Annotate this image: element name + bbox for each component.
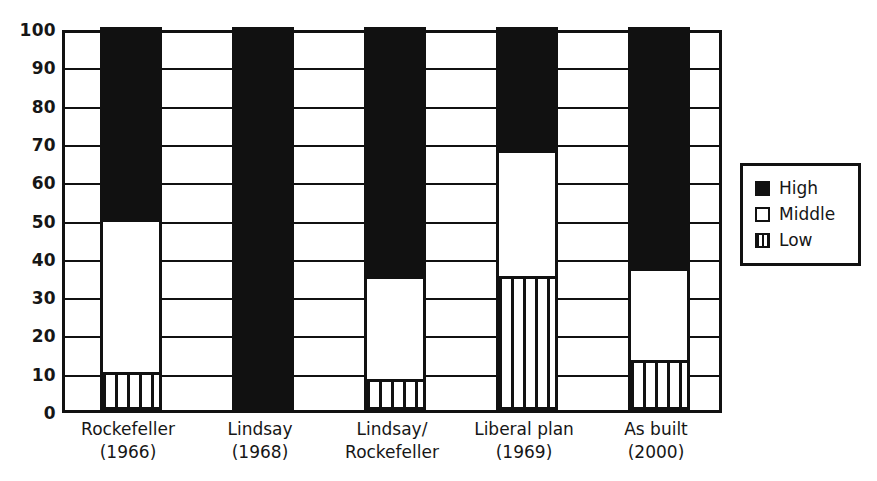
bar-group [65, 33, 719, 410]
bar-segment-middle[interactable] [100, 219, 162, 372]
bar-segment-low[interactable] [364, 379, 426, 410]
stacked-bar[interactable] [364, 27, 426, 410]
bar-slot [461, 33, 593, 410]
x-axis-label-line1: As built [578, 418, 734, 441]
x-axis-label-line2: (2000) [578, 441, 734, 464]
y-axis-tick-label: 70 [12, 136, 56, 153]
bar-segment-low[interactable] [496, 276, 558, 410]
y-axis-tick-label: 60 [12, 175, 56, 192]
y-axis-tick-label: 20 [12, 328, 56, 345]
legend-label: Middle [779, 206, 835, 223]
y-axis-tick-labels: 0102030405060708090100 [4, 0, 56, 481]
chart-legend: HighMiddleLow [740, 163, 861, 266]
bar-segment-middle[interactable] [364, 276, 426, 379]
bar-segment-middle[interactable] [496, 150, 558, 276]
y-axis-tick-label: 10 [12, 366, 56, 383]
bar-slot [65, 33, 197, 410]
stacked-bar[interactable] [232, 27, 294, 410]
legend-swatch-low-icon [755, 233, 770, 248]
plot-area [62, 30, 722, 413]
bar-slot [197, 33, 329, 410]
bar-segment-high[interactable] [496, 27, 558, 150]
legend-swatch-high-icon [755, 181, 770, 196]
legend-item[interactable]: Middle [755, 201, 848, 227]
bar-slot [329, 33, 461, 410]
stacked-bar-chart: 0102030405060708090100 Rockefeller(1966)… [0, 0, 877, 481]
stacked-bar[interactable] [100, 27, 162, 410]
bar-segment-high[interactable] [232, 27, 294, 410]
y-axis-tick-label: 90 [12, 60, 56, 77]
bar-segment-low[interactable] [100, 372, 162, 410]
legend-swatch-middle-icon [755, 207, 770, 222]
bar-segment-middle[interactable] [628, 268, 690, 360]
bar-segment-high[interactable] [628, 27, 690, 268]
legend-item[interactable]: High [755, 175, 848, 201]
bar-segment-low[interactable] [628, 360, 690, 410]
bar-slot [593, 33, 725, 410]
legend-label: Low [779, 232, 812, 249]
y-axis-tick-label: 30 [12, 290, 56, 307]
stacked-bar[interactable] [496, 27, 558, 410]
y-axis-tick-label: 50 [12, 213, 56, 230]
y-axis-tick-label: 100 [12, 22, 56, 39]
stacked-bar[interactable] [628, 27, 690, 410]
legend-label: High [779, 180, 818, 197]
bar-segment-high[interactable] [364, 27, 426, 276]
bar-segment-high[interactable] [100, 27, 162, 219]
x-axis-category-labels: Rockefeller(1966)Lindsay(1968)Lindsay/Ro… [62, 418, 722, 478]
y-axis-tick-label: 40 [12, 251, 56, 268]
y-axis-tick-label: 80 [12, 98, 56, 115]
legend-item[interactable]: Low [755, 227, 848, 253]
x-axis-label: As built(2000) [578, 418, 734, 464]
